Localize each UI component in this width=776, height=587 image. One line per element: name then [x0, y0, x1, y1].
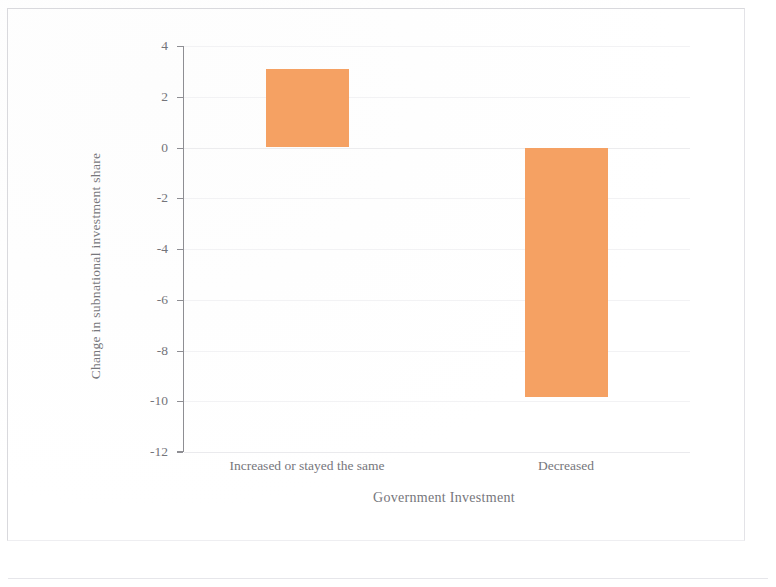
y-tick-label: -10 [150, 393, 168, 409]
x-axis-title: Government Investment [373, 490, 515, 506]
y-tick-label: -12 [150, 444, 168, 460]
gridline-neg8 [184, 351, 690, 352]
y-tick-label: -8 [157, 343, 168, 359]
y-tick-label: 2 [161, 89, 168, 105]
bar [525, 148, 608, 398]
gridline-neg6 [184, 300, 690, 301]
y-tick-neg4: -4 [177, 249, 183, 250]
bar-chart-figure: Change in subnational investment share 4… [0, 0, 776, 587]
y-tick-neg8: -8 [177, 351, 183, 352]
gridline-0 [184, 148, 690, 149]
gridline-neg10 [184, 401, 690, 402]
y-tick-neg6: -6 [177, 300, 183, 301]
y-tick-neg10: -10 [177, 401, 183, 402]
y-tick-label: -2 [157, 190, 168, 206]
y-tick-neg2: -2 [177, 198, 183, 199]
y-tick-2: 2 [177, 97, 183, 98]
y-tick-label: -6 [157, 292, 168, 308]
gridline-neg2 [184, 198, 690, 199]
y-tick-label: 0 [161, 140, 168, 156]
y-tick-0: 0 [177, 148, 183, 149]
gridline-2 [184, 97, 690, 98]
plot-area: 420-2-4-6-8-10-12 Increased or stayed th… [183, 46, 690, 452]
gridline-neg4 [184, 249, 690, 250]
gridline-4 [184, 46, 690, 47]
y-tick-neg12: -12 [177, 452, 183, 453]
y-tick-4: 4 [177, 46, 183, 47]
y-tick-label: -4 [157, 241, 168, 257]
x-tick-label: Decreased [538, 458, 594, 474]
y-tick-label: 4 [161, 38, 168, 54]
bar [266, 69, 349, 148]
x-tick-label: Increased or stayed the same [229, 458, 384, 474]
y-axis-title: Change in subnational investment share [88, 106, 104, 426]
x-axis-baseline [184, 452, 690, 453]
